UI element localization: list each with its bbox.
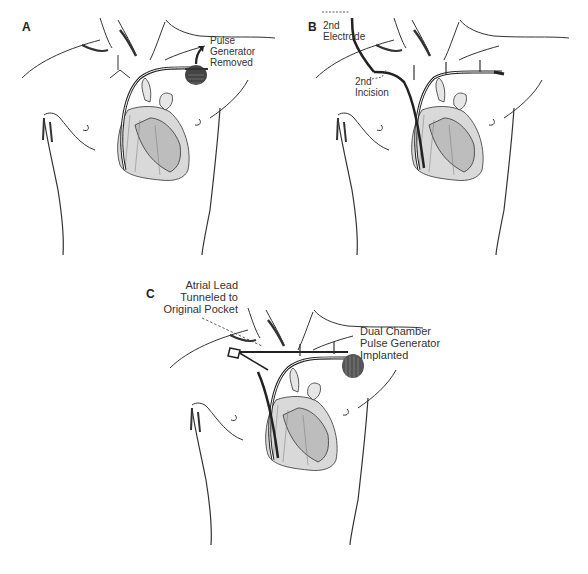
panel-label-c: C (146, 287, 155, 301)
label-line: Pulse Generator (360, 337, 440, 349)
label-line: Electrode (323, 31, 365, 42)
label-2nd-incision: 2nd Incision (355, 76, 389, 98)
illustration-canvas (0, 0, 588, 574)
label-line: Generator (210, 46, 255, 57)
label-line: 2nd (323, 20, 365, 31)
panel-label-a: A (22, 20, 31, 34)
label-line: Incision (355, 87, 389, 98)
label-line: 2nd (355, 76, 389, 87)
panel-label-b: B (308, 20, 317, 34)
label-2nd-electrode: 2nd Electrode (323, 20, 365, 42)
label-line: Original Pocket (158, 303, 238, 315)
label-line: Removed (210, 57, 255, 68)
label-line: Pulse (210, 35, 255, 46)
label-line: Implanted (360, 349, 440, 361)
label-pulse-generator-removed: Pulse Generator Removed (210, 35, 255, 68)
label-line: Dual Chamber (360, 325, 440, 337)
label-dual-chamber-generator: Dual Chamber Pulse Generator Implanted (360, 325, 440, 361)
label-line: Atrial Lead (158, 279, 238, 291)
panel-b-art (316, 18, 569, 255)
label-line: Tunneled to (158, 291, 238, 303)
label-atrial-lead: Atrial Lead Tunneled to Original Pocket (158, 279, 238, 315)
